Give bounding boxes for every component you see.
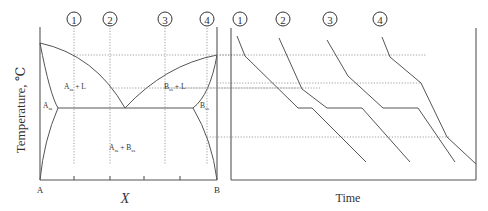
x-axis-label: X bbox=[120, 191, 130, 206]
region-label-beta-liquid: Bss + L bbox=[164, 82, 186, 92]
composition-marker-4: 4 bbox=[200, 12, 214, 26]
svg-text:4: 4 bbox=[377, 14, 383, 26]
curve-marker-4: 4 bbox=[373, 12, 387, 26]
curve-marker-2: 2 bbox=[276, 12, 290, 26]
time-axis-label: Time bbox=[336, 191, 361, 205]
x-right-label: B bbox=[214, 185, 220, 195]
svg-text:2: 2 bbox=[107, 14, 113, 26]
svg-text:3: 3 bbox=[327, 14, 333, 26]
region-label-alpha-liquid: Ass + L bbox=[64, 82, 86, 92]
composition-marker-2: 2 bbox=[103, 12, 117, 26]
cooling-curve-4 bbox=[382, 37, 476, 164]
composition-marker-3: 3 bbox=[158, 12, 172, 26]
solvus-b bbox=[193, 108, 217, 180]
svg-text:1: 1 bbox=[237, 14, 243, 26]
curve-marker-1: 1 bbox=[233, 12, 247, 26]
svg-text:4: 4 bbox=[204, 14, 210, 26]
liquidus-a bbox=[40, 43, 125, 108]
x-left-label: A bbox=[37, 185, 44, 195]
y-axis-label: Temperature, ℃ bbox=[13, 67, 28, 154]
region-label-two-solid: Ass + Bss bbox=[109, 143, 135, 153]
svg-text:1: 1 bbox=[71, 14, 77, 26]
curve-marker-3: 3 bbox=[323, 12, 337, 26]
svg-text:3: 3 bbox=[162, 14, 168, 26]
solvus-a bbox=[40, 108, 58, 180]
cooling-curves-panel: 1 2 3 4 Time bbox=[231, 12, 476, 205]
solidus-a bbox=[40, 43, 58, 108]
composition-marker-1: 1 bbox=[67, 12, 81, 26]
region-label-beta: Bss bbox=[200, 101, 209, 111]
region-label-alpha: Ass bbox=[43, 101, 52, 111]
svg-text:2: 2 bbox=[280, 14, 286, 26]
phase-diagram-figure: 1 2 3 4 Ass + L Bss + L Ass Bss Ass + Bs… bbox=[0, 0, 488, 211]
